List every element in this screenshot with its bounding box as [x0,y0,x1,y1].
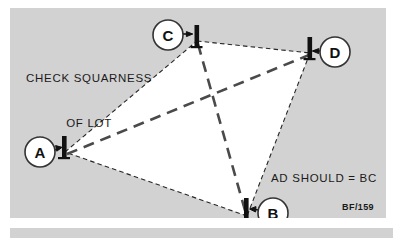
ad-equals-bc-caption: AD SHOULD = BC [271,171,377,186]
corner-label-b: B [268,205,279,219]
arrowhead-d [312,49,318,54]
diagram-panel: A B C D CHECK SQUARNESS OF LOT AD SHOULD… [10,8,386,218]
check-squareness-caption: CHECK SQUARNESS OF LOT [26,42,152,160]
bottom-gray-strip [10,228,393,238]
plate-code-label: BF/159 [342,202,374,212]
corner-label-d: D [330,44,341,61]
arrowhead-c [186,32,192,37]
corner-label-c: C [163,27,174,44]
figure-root: A B C D CHECK SQUARNESS OF LOT AD SHOULD… [0,0,393,238]
check-squareness-line2: OF LOT [26,116,152,131]
check-squareness-line1: CHECK SQUARNESS [26,71,152,86]
